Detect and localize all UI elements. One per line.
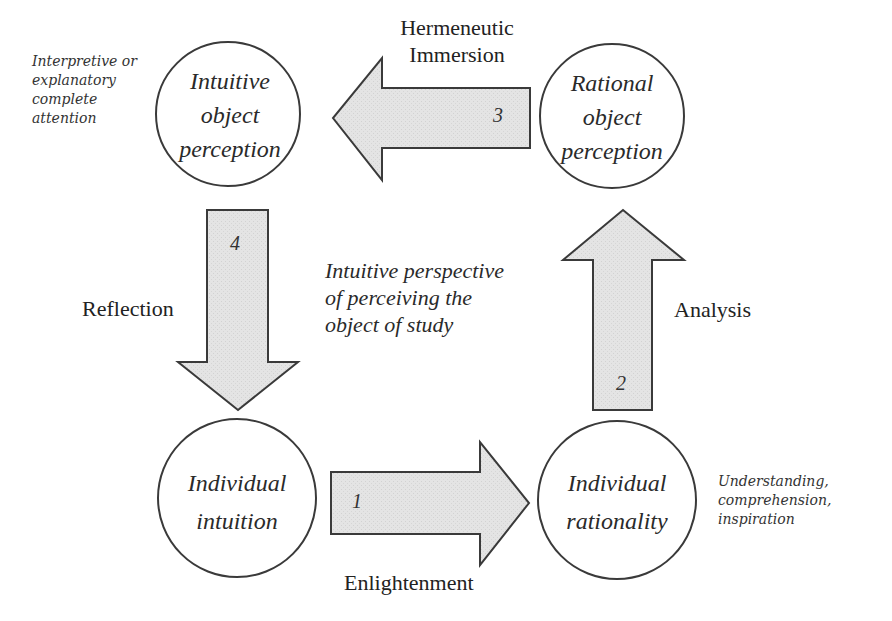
note-line: Interpretive or xyxy=(32,52,137,71)
arrow-2-label: Analysis xyxy=(674,297,751,322)
node-label-line: perception xyxy=(158,132,302,166)
arrow-2-number: 2 xyxy=(616,372,626,395)
arrow-label-line: Hermeneutic xyxy=(382,14,532,41)
node-label-individual-rationality: Individual rationality xyxy=(540,464,694,540)
arrow-1-label: Enlightenment xyxy=(344,570,474,595)
arrow-3-label: Hermeneutic Immersion xyxy=(382,14,532,68)
node-label-line: Individual xyxy=(160,464,314,502)
note-line: explanatory xyxy=(32,71,137,90)
node-label-intuitive-object-perception: Intuitive object perception xyxy=(158,64,302,166)
arrow-1-number: 1 xyxy=(352,490,362,513)
center-note: Intuitive perspective of perceiving the … xyxy=(325,257,504,338)
node-label-line: Rational xyxy=(540,66,684,100)
node-label-line: Intuitive xyxy=(158,64,302,98)
node-label-line: Individual xyxy=(540,464,694,502)
center-note-line: of perceiving the xyxy=(325,284,504,311)
center-note-line: object of study xyxy=(325,311,504,338)
arrow-4-number: 4 xyxy=(230,232,240,255)
note-bottom-right: Understanding, comprehension, inspiratio… xyxy=(718,472,831,529)
note-line: Understanding, xyxy=(718,472,831,491)
note-line: inspiration xyxy=(718,510,831,529)
note-line: attention xyxy=(32,109,137,128)
arrow-4-label: Reflection xyxy=(82,296,174,321)
note-line: complete xyxy=(32,90,137,109)
node-label-line: rationality xyxy=(540,502,694,540)
node-label-line: object xyxy=(158,98,302,132)
note-top-left: Interpretive or explanatory complete att… xyxy=(32,52,137,128)
center-note-line: Intuitive perspective xyxy=(325,257,504,284)
node-label-individual-intuition: Individual intuition xyxy=(160,464,314,540)
node-label-rational-object-perception: Rational object perception xyxy=(540,66,684,168)
node-label-line: intuition xyxy=(160,502,314,540)
arrow-label-line: Immersion xyxy=(382,41,532,68)
note-line: comprehension, xyxy=(718,491,831,510)
arrow-3-number: 3 xyxy=(493,104,503,127)
node-label-line: perception xyxy=(540,134,684,168)
node-label-line: object xyxy=(540,100,684,134)
